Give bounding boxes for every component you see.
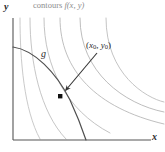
point-close-paren: ) <box>108 40 111 50</box>
contour-curves-group <box>20 18 164 139</box>
tangency-point-label: (x0, y0) <box>86 41 111 51</box>
contours-caption-text: contours <box>33 0 64 10</box>
contours-caption: contours f(x, y) <box>33 1 84 10</box>
lagrange-multiplier-figure: contours f(x, y) y x g (x0, y0) <box>0 0 165 152</box>
y-axis-label: y <box>4 2 8 12</box>
contour-curve-5 <box>80 18 164 112</box>
contour-curve-2 <box>30 18 66 139</box>
tangency-point-marker <box>58 94 62 98</box>
x-axis-label: x <box>152 132 157 142</box>
pointer-arrow <box>66 53 98 91</box>
figure-canvas <box>0 0 165 152</box>
constraint-curve-label: g <box>41 49 46 59</box>
constraint-curve-g <box>13 47 86 140</box>
contours-caption-args: (x, y) <box>67 0 84 10</box>
